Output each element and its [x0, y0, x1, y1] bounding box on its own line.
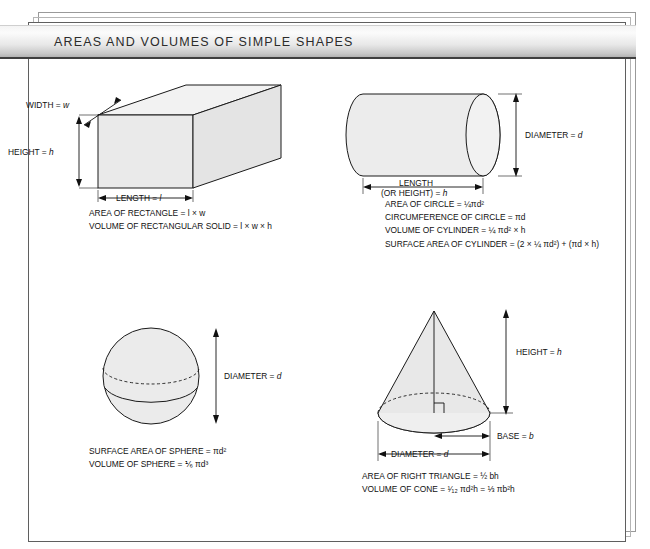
formula-area-circle: AREA OF CIRCLE = ¼πd² [385, 198, 599, 211]
height-variable: h [49, 147, 54, 157]
title-banner: AREAS AND VOLUMES OF SIMPLE SHAPES [0, 25, 636, 59]
box-front-face [98, 115, 193, 188]
cone-diameter-label: DIAMETER = d [391, 449, 449, 459]
diameter-arrow-head-bottom [513, 168, 519, 177]
sphere-diameter-arrow-head-top [213, 328, 219, 337]
length-arrow-head-right [185, 195, 193, 201]
cone-height-arrow-head-top [503, 309, 509, 318]
height-arrow-head-bottom [76, 179, 82, 187]
formula-surface-area-cylinder: SURFACE AREA OF CYLINDER = (2 × ¼ πd²) +… [385, 238, 599, 251]
cylinder-formulas: AREA OF CIRCLE = ¼πd² CIRCUMFERENCE OF C… [385, 198, 599, 251]
sphere-diameter-variable: d [277, 371, 282, 381]
cone-height-variable: h [557, 347, 562, 357]
cone-diameter-variable: d [444, 449, 449, 459]
rectangular-solid-formulas: AREA OF RECTANGLE = l × w VOLUME OF RECT… [89, 207, 272, 233]
height-label: HEIGHT = h [8, 147, 54, 157]
cylinder-diameter-variable: d [578, 130, 583, 140]
cone-base-arrow-head-left [434, 433, 442, 439]
formula-area-rectangle: AREA OF RECTANGLE = l × w [89, 207, 272, 220]
cylinder-length-label-line1: LENGTH [399, 178, 433, 188]
cylinder-length-variable: h [443, 188, 448, 198]
formula-surface-area-sphere: SURFACE AREA OF SPHERE = πd² [89, 445, 226, 458]
cylinder-length-label-line2: (OR HEIGHT) = h [381, 188, 448, 198]
sphere-formulas: SURFACE AREA OF SPHERE = πd² VOLUME OF S… [89, 445, 226, 471]
width-arrow-head-end [114, 97, 121, 104]
worksheet-page: AREAS AND VOLUMES OF SIMPLE SHAPES WIDTH… [0, 0, 650, 549]
cone-base-variable: b [529, 431, 534, 441]
diagram-rectangular-solid: WIDTH = w HEIGHT = h LENGTH = l [46, 78, 346, 203]
width-variable: w [63, 100, 70, 110]
page-title: AREAS AND VOLUMES OF SIMPLE SHAPES [54, 35, 354, 49]
cyl-length-arrow-head-left [363, 184, 371, 190]
cone-base-front [378, 413, 490, 433]
length-arrow-head-left [98, 195, 106, 201]
cone-diameter-arrow-head-left [378, 451, 386, 457]
diagram-sphere: DIAMETER = d [96, 326, 356, 436]
cone-height-arrow-head-bottom [503, 406, 509, 415]
cyl-length-arrow-head-right [475, 184, 483, 190]
formula-area-right-triangle: AREA OF RIGHT TRIANGLE = ½ bh [362, 470, 515, 483]
sphere-diameter-arrow-head-bottom [213, 415, 219, 424]
length-label: LENGTH = l [116, 193, 163, 203]
formula-volume-cone: VOLUME OF CONE = ¹⁄₁₂ πd²h = ⅓ πb²h [362, 483, 515, 496]
formula-volume-rectangular-solid: VOLUME OF RECTANGULAR SOLID = l × w × h [89, 220, 272, 233]
sphere-diameter-label: DIAMETER = d [224, 371, 282, 381]
diagram-cylinder: DIAMETER = d LENGTH (OR HEIGHT) = h [338, 86, 618, 201]
cone-base-arrow-head-right [482, 433, 490, 439]
width-label: WIDTH = w [26, 100, 70, 110]
cone-diameter-arrow-head-right [482, 451, 490, 457]
cylinder-end-cap [466, 94, 500, 176]
cone-height-label: HEIGHT = h [516, 347, 562, 357]
sphere-outline [103, 328, 199, 424]
formula-volume-cylinder: VOLUME OF CYLINDER = ¼ πd² × h [385, 224, 599, 237]
height-arrow-head-top [76, 116, 82, 124]
width-arrow-head-start [84, 121, 91, 128]
diagram-cone: HEIGHT = h BASE = b DIAMETER = d [358, 305, 628, 470]
formula-circumference-circle: CIRCUMFERENCE OF CIRCLE = πd [385, 211, 599, 224]
cone-formulas: AREA OF RIGHT TRIANGLE = ½ bh VOLUME OF … [362, 470, 515, 496]
cylinder-diameter-label: DIAMETER = d [525, 130, 583, 140]
diameter-arrow-head-top [513, 93, 519, 102]
formula-volume-sphere: VOLUME OF SPHERE = ⅙ πd³ [89, 458, 226, 471]
cone-base-label: BASE = b [497, 431, 534, 441]
